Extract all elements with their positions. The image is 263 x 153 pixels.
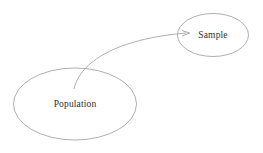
diagram-svg: Population Sample	[0, 0, 263, 153]
node-population[interactable]: Population	[14, 68, 137, 140]
population-label: Population	[54, 99, 97, 109]
arrow-curve-path	[74, 33, 186, 89]
diagram-canvas: Population Sample	[0, 0, 263, 153]
node-sample[interactable]: Sample	[178, 14, 249, 57]
edge-population-to-sample[interactable]	[74, 31, 190, 89]
sample-label: Sample	[198, 30, 227, 40]
